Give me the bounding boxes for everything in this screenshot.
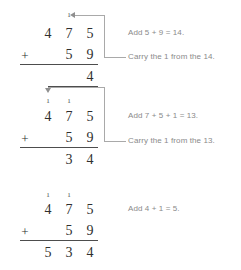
bottom-digit-tens: 5 — [62, 131, 76, 145]
top-digit-ones: 5 — [83, 110, 97, 124]
note-carry-tens: Carry the 1 from the 13. — [128, 136, 215, 146]
operator-plus: + — [19, 132, 31, 145]
carry-connector-top — [75, 15, 105, 16]
carry-connector-bottom — [104, 57, 126, 58]
note-carry-ones: Carry the 1 from the 14. — [128, 52, 215, 62]
tens-connector-bottom — [104, 141, 126, 142]
carry-mark-tens: 1 — [64, 98, 74, 105]
note-add-tens: Add 7 + 5 + 1 = 13. — [128, 111, 198, 121]
sum-digit-ones: 4 — [83, 246, 97, 260]
top-digit-tens: 7 — [62, 27, 76, 41]
addition-rule — [20, 147, 98, 148]
result-digit-ones: 4 — [83, 153, 97, 167]
top-digit-ones: 5 — [83, 203, 97, 217]
bottom-digit-ones: 9 — [83, 131, 97, 145]
result-digit-ones: 4 — [83, 70, 97, 84]
arrow-down-icon — [45, 88, 51, 93]
sum-digit-tens: 3 — [62, 246, 76, 260]
carry-mark-tens: 1 — [64, 192, 74, 199]
operator-plus: + — [19, 225, 31, 238]
top-digit-ones: 5 — [83, 27, 97, 41]
top-digit-hundreds: 4 — [41, 110, 55, 124]
note-add-ones: Add 5 + 9 = 14. — [128, 28, 184, 38]
top-digit-tens: 7 — [62, 203, 76, 217]
result-digit-tens: 3 — [62, 153, 76, 167]
top-digit-hundreds: 4 — [41, 203, 55, 217]
carry-mark-hundreds: 1 — [43, 98, 53, 105]
tens-connector-top — [48, 87, 105, 88]
addition-rule — [20, 240, 98, 241]
carry-connector-vertical — [104, 15, 105, 58]
bottom-digit-ones: 9 — [83, 48, 97, 62]
top-digit-hundreds: 4 — [41, 27, 55, 41]
bottom-digit-tens: 5 — [62, 48, 76, 62]
bottom-digit-tens: 5 — [62, 224, 76, 238]
arrow-left-icon — [70, 12, 75, 18]
sum-digit-hundreds: 5 — [41, 246, 55, 260]
addition-rule — [20, 64, 98, 65]
operator-plus: + — [19, 49, 31, 62]
carry-mark-hundreds: 1 — [43, 192, 53, 199]
bottom-digit-ones: 9 — [83, 224, 97, 238]
top-digit-tens: 7 — [62, 110, 76, 124]
worksheet-canvas: 1 4 7 5 + 5 9 4 Add 5 + 9 = 14. Carry th… — [0, 0, 241, 270]
note-add-hundreds: Add 4 + 1 = 5. — [128, 204, 180, 214]
tens-connector-vertical — [104, 87, 105, 142]
